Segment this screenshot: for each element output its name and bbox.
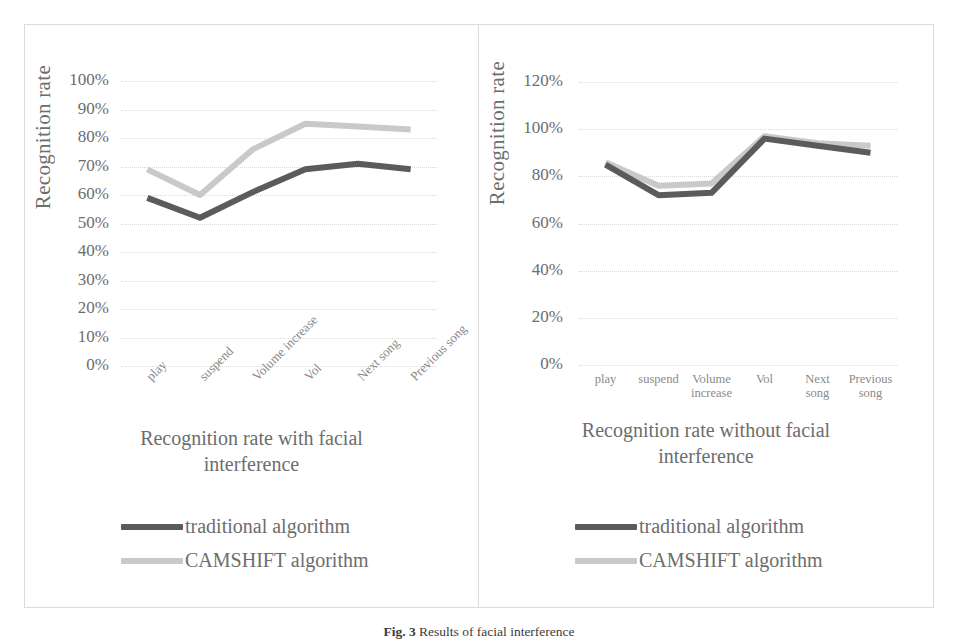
legend-label-camshift: CAMSHIFT algorithm <box>185 549 369 572</box>
legend-item-camshift-left[interactable]: CAMSHIFT algorithm <box>25 549 478 572</box>
y-tick-label: 0% <box>540 355 563 372</box>
y-tick-label: 40% <box>532 261 563 278</box>
y-tick-label: 70% <box>78 157 109 174</box>
x-tick-label: Previoussong <box>840 372 902 401</box>
series-line-camshift <box>606 136 871 186</box>
y-tick-label: 40% <box>78 242 109 259</box>
legend-label-traditional: traditional algorithm <box>185 515 350 538</box>
chart-panel-left: Recognition rate 0%10%20%30%40%50%60%70%… <box>25 25 479 607</box>
y-axis-ticks-right: 0%20%40%60%80%100%120% <box>501 25 563 385</box>
series-line-camshift <box>147 124 410 195</box>
legend-swatch-traditional-icon <box>121 524 183 530</box>
x-tick-label-line2: increase <box>681 386 743 400</box>
y-tick-label: 20% <box>78 299 109 316</box>
series-lines <box>121 81 437 366</box>
figure-caption-prefix: Fig. 3 <box>383 624 415 639</box>
y-axis-ticks-left: 0%10%20%30%40%50%60%70%80%90%100% <box>47 25 109 385</box>
series-line-traditional <box>606 139 871 196</box>
chart-title-left-line2: interference <box>55 451 448 477</box>
chart-panel-right: Recognition rate 0%20%40%60%80%100%120% … <box>479 25 933 607</box>
chart-title-right: Recognition rate without facial interfer… <box>479 417 933 470</box>
figure-caption-text: Results of facial interference <box>419 624 575 639</box>
legend-left: traditional algorithm CAMSHIFT algorithm <box>25 515 478 583</box>
chart-area-right: Recognition rate 0%20%40%60%80%100%120% … <box>479 25 933 385</box>
chart-title-right-line2: interference <box>509 443 903 469</box>
chart-title-right-line1: Recognition rate without facial <box>509 417 903 443</box>
legend-right: traditional algorithm CAMSHIFT algorithm <box>479 515 933 583</box>
y-tick-label: 120% <box>523 72 563 89</box>
y-tick-label: 50% <box>78 214 109 231</box>
y-tick-label: 60% <box>78 185 109 202</box>
y-tick-label: 80% <box>532 167 563 184</box>
legend-swatch-traditional-icon <box>575 524 637 530</box>
legend-item-traditional-right[interactable]: traditional algorithm <box>479 515 933 538</box>
gridline <box>579 365 897 366</box>
chart-area-left: Recognition rate 0%10%20%30%40%50%60%70%… <box>25 25 478 385</box>
plot-region-left <box>121 81 437 366</box>
legend-label-camshift: CAMSHIFT algorithm <box>639 549 823 572</box>
chart-title-left-line1: Recognition rate with facial <box>55 425 448 451</box>
y-tick-label: 60% <box>532 214 563 231</box>
figure-container: Recognition rate 0%10%20%30%40%50%60%70%… <box>24 24 934 608</box>
figure-caption: Fig. 3 Results of facial interference <box>0 624 958 640</box>
legend-item-traditional-left[interactable]: traditional algorithm <box>25 515 478 538</box>
y-tick-label: 100% <box>523 120 563 137</box>
legend-item-camshift-right[interactable]: CAMSHIFT algorithm <box>479 549 933 572</box>
chart-title-left: Recognition rate with facial interferenc… <box>25 425 478 478</box>
y-tick-label: 80% <box>78 128 109 145</box>
y-tick-label: 0% <box>86 356 109 373</box>
x-tick-label-line1: Previous <box>840 372 902 386</box>
legend-swatch-camshift-icon <box>575 558 637 564</box>
y-tick-label: 20% <box>532 308 563 325</box>
y-tick-label: 90% <box>78 100 109 117</box>
y-tick-label: 30% <box>78 271 109 288</box>
legend-swatch-camshift-icon <box>121 558 183 564</box>
legend-label-traditional: traditional algorithm <box>639 515 804 538</box>
x-tick-label-line2: song <box>840 386 902 400</box>
y-tick-label: 10% <box>78 328 109 345</box>
plot-region-right <box>579 82 897 365</box>
y-tick-label: 100% <box>69 71 109 88</box>
series-lines <box>579 82 897 365</box>
